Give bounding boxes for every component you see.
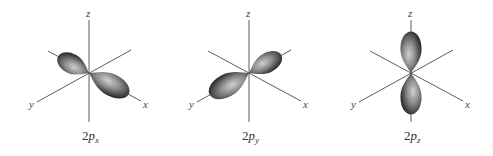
orbital-lobe-negative: [53, 48, 93, 82]
orbital-lobe-positive: [244, 47, 286, 82]
x-axis-label: x: [302, 98, 308, 110]
x-axis-label: x: [464, 98, 470, 110]
panel-2pz: z y x: [350, 7, 470, 122]
z-axis-label: z: [85, 7, 91, 19]
caption-2py: 2py: [242, 128, 259, 145]
p-orbitals-figure: z y x 2px z y x 2py z y x: [0, 0, 493, 156]
z-axis-label: z: [245, 7, 251, 19]
orbital-lobe-negative: [400, 73, 421, 114]
caption-2px: 2px: [82, 128, 99, 145]
y-axis-label: y: [28, 98, 34, 110]
orbital-lobe-negative: [204, 63, 254, 105]
x-axis-label: x: [142, 98, 148, 110]
y-axis-label: y: [350, 98, 356, 110]
panel-2px: z y x: [28, 7, 148, 122]
orbital-lobe-positive: [400, 32, 421, 73]
y-axis-label: y: [188, 98, 194, 110]
caption-2pz: 2pz: [404, 128, 421, 145]
orbital-lobe-positive: [84, 63, 134, 104]
z-axis-label: z: [407, 7, 413, 19]
panel-2py: z y x: [188, 7, 308, 122]
